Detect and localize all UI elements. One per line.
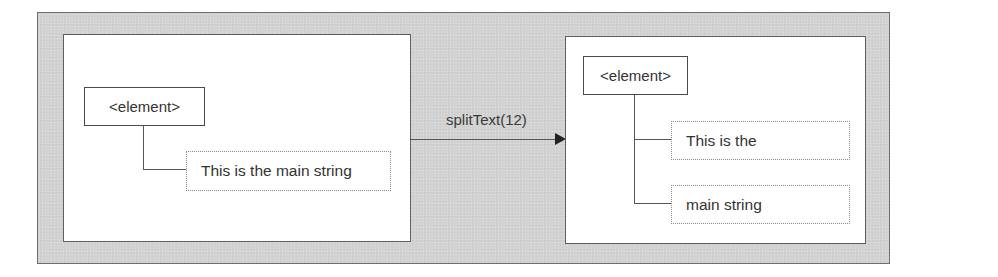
before-element-node: <element>: [84, 87, 205, 126]
before-text-node-label: This is the main string: [201, 162, 352, 180]
after-text-node-2: main string: [671, 185, 850, 224]
operation-arrow-shaft: [410, 139, 556, 141]
operation-label: splitText(12): [446, 111, 527, 128]
after-element-label: <element>: [600, 67, 671, 84]
after-text-node-1-label: This is the: [686, 132, 757, 150]
before-connector-vertical: [143, 126, 144, 170]
before-panel: [63, 34, 411, 242]
before-connector-horizontal: [143, 169, 186, 170]
after-text-node-2-label: main string: [686, 196, 762, 214]
after-connector-vertical: [634, 95, 635, 204]
after-connector-horizontal-2: [634, 203, 671, 204]
before-text-node: This is the main string: [186, 151, 391, 191]
after-text-node-1: This is the: [671, 121, 850, 160]
operation-label-text: splitText(12): [446, 111, 527, 128]
after-connector-horizontal-1: [634, 139, 671, 140]
after-element-node: <element>: [583, 56, 688, 95]
before-element-label: <element>: [109, 98, 180, 115]
